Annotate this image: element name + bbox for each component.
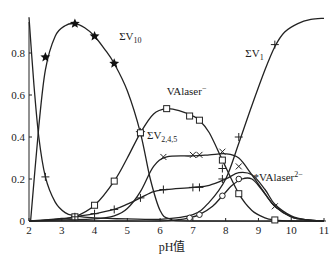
x-tick-label: 9	[256, 224, 262, 236]
plus-marker-icon	[159, 186, 167, 194]
square-marker-icon	[111, 178, 117, 184]
square-marker-icon	[164, 106, 170, 112]
curve-valaser	[29, 108, 324, 221]
y-tick-label: 0.4	[11, 131, 25, 143]
square-marker-icon	[187, 113, 193, 119]
circle-marker-icon	[236, 176, 242, 182]
plus-marker-icon	[91, 210, 99, 218]
x-tick-label: 4	[92, 224, 98, 236]
plus-marker-icon	[195, 183, 203, 191]
x-tick-label: 11	[319, 224, 330, 236]
circle-marker-icon	[197, 212, 203, 218]
x-tick-label: 10	[286, 224, 298, 236]
plus-marker-icon	[110, 205, 118, 213]
y-tick-label: 0	[20, 215, 26, 227]
circle-marker-icon	[220, 193, 226, 199]
cross-marker-icon	[190, 152, 196, 158]
square-marker-icon	[236, 191, 242, 197]
y-tick-label: 0.6	[11, 89, 25, 101]
square-marker-icon	[272, 217, 278, 223]
y-tick-label: 0.2	[11, 173, 25, 185]
square-marker-icon	[137, 130, 143, 136]
x-tick-label: 2	[26, 224, 32, 236]
x-tick-label: 6	[157, 224, 163, 236]
circle-marker-icon	[187, 215, 193, 221]
square-marker-icon	[196, 117, 202, 123]
series-label-v10: ΣV10	[119, 30, 141, 45]
x-tick-label: 8	[223, 224, 229, 236]
series-label-valaser2: *VAlaser2−	[254, 170, 304, 183]
series-label-v1: ΣV1	[245, 47, 263, 62]
curves	[29, 17, 324, 221]
cross-marker-icon	[236, 163, 242, 169]
series-label-valaser: VAlaser−	[167, 84, 207, 97]
square-marker-icon	[219, 157, 225, 163]
star-marker-icon	[109, 58, 119, 67]
square-marker-icon	[92, 202, 98, 208]
x-tick-label: 5	[125, 224, 131, 236]
x-tick-label: 7	[190, 224, 196, 236]
chart-canvas: 234567891011 00.20.40.60.8 ΣV10VAlaser−Σ…	[0, 0, 335, 266]
plus-marker-icon	[41, 173, 49, 181]
axes: 234567891011 00.20.40.60.8	[11, 22, 329, 236]
data-markers	[40, 18, 278, 223]
series-label-v2-4-5: ΣV2,4,5	[147, 129, 177, 144]
y-tick-label: 0.8	[11, 47, 25, 59]
star-marker-icon	[70, 18, 80, 27]
curve-v10	[31, 24, 324, 222]
x-axis-title: pH值	[159, 239, 186, 254]
x-tick-label: 3	[59, 224, 65, 236]
